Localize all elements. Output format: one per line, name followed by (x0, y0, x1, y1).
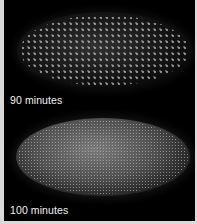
panel-label-90-minutes: 90 minutes (10, 94, 62, 106)
embryo-figure: 90 minutes 100 minutes (4, 0, 195, 221)
panel-100-minutes: 100 minutes (4, 110, 195, 221)
panel-90-minutes: 90 minutes (4, 0, 195, 110)
embryo-image-90-minutes (17, 12, 192, 89)
panel-label-100-minutes: 100 minutes (10, 204, 68, 216)
embryo-image-100-minutes (16, 118, 190, 196)
